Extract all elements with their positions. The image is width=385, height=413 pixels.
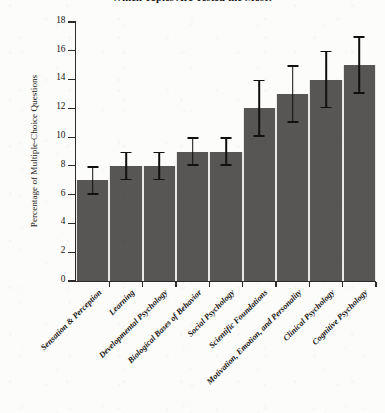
error-bar-stem [192,137,194,166]
y-tick-16: 16 [68,50,76,51]
error-bar [185,137,201,166]
y-tick-label-16: 16 [56,44,65,54]
y-tick-18: 18 [68,21,76,22]
error-bar-cap-bottom [287,121,298,123]
error-bar-cap-top [287,65,298,67]
y-axis-line [75,21,76,282]
y-tick-2: 2 [68,252,76,253]
error-bar-cap-top [187,137,198,139]
y-tick-14: 14 [68,79,76,80]
y-tick-label-2: 2 [61,245,66,255]
error-bar-stem [292,65,294,123]
error-bar-cap-top [121,152,132,154]
bar [143,166,176,281]
error-bar-cap-bottom [87,193,98,195]
chart-title: Which Topics Are Tested the Most? [0,0,385,3]
y-tick-10: 10 [68,137,76,138]
error-bar-cap-top [221,137,232,139]
x-axis-label-text: Learning [107,288,136,317]
y-tick-label-0: 0 [61,274,66,284]
error-bar-cap-bottom [121,179,132,181]
error-bar-cap-bottom [154,179,165,181]
y-tick-label-10: 10 [56,130,65,140]
y-tick-0: 0 [68,280,76,281]
y-tick-6: 6 [68,194,76,195]
error-bar-cap-bottom [254,135,265,137]
bar [76,180,109,281]
error-bar-cap-bottom [354,92,365,94]
error-bar [218,137,234,166]
error-bar-stem [125,152,127,181]
y-tick-12: 12 [68,108,76,109]
error-bar-cap-top [254,80,265,82]
error-bar-cap-top [87,166,98,168]
x-axis-label-text: Sensation & Perception [39,288,103,352]
y-axis-title: Percentage of Multiple-Choice Questions [29,31,39,271]
y-tick-4: 4 [68,223,76,224]
error-bar-stem [159,152,161,181]
y-tick-8: 8 [68,165,76,166]
x-axis-line [75,281,376,282]
error-bar-cap-top [321,51,332,53]
error-bar-cap-bottom [221,164,232,166]
error-bar-cap-bottom [321,107,332,109]
y-tick-label-14: 14 [56,72,65,82]
error-bar-stem [359,36,361,94]
error-bar [351,36,367,94]
error-bar-stem [259,80,261,138]
error-bar-stem [225,137,227,166]
error-bar [118,152,134,181]
x-axis-label-text: Scientific Foundations [208,288,270,350]
error-bar [318,51,334,109]
error-bar [151,152,167,181]
error-bar [285,65,301,123]
y-tick-label-18: 18 [56,15,65,25]
x-axis-label-text: Developmental Psychology [98,288,170,360]
y-tick-label-6: 6 [61,188,66,198]
error-bar [85,166,101,195]
error-bar-stem [325,51,327,109]
error-bar-stem [92,166,94,195]
error-bar [251,80,267,138]
error-bar-cap-top [154,152,165,154]
y-tick-label-8: 8 [61,159,66,169]
y-tick-label-4: 4 [61,216,66,226]
error-bar-cap-bottom [187,164,198,166]
y-tick-label-12: 12 [56,101,65,111]
error-bar-cap-top [354,36,365,38]
